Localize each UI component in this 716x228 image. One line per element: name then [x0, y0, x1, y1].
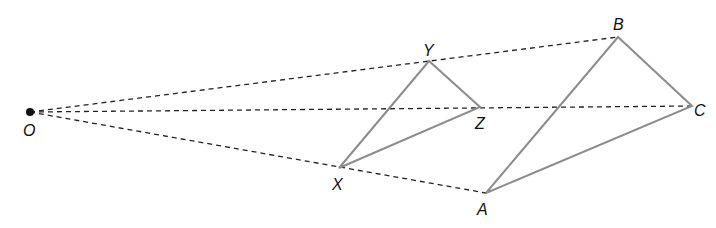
label-x: X [331, 176, 344, 193]
triangle-xyz [339, 61, 480, 168]
label-c: C [694, 102, 706, 119]
dilation-diagram: O Y Z X B C A [0, 0, 716, 228]
ray-o-a [30, 112, 486, 193]
ray-o-c [30, 106, 692, 112]
label-z: Z [474, 115, 486, 132]
ray-o-b [30, 37, 618, 112]
label-b: B [613, 16, 624, 33]
label-y: Y [423, 42, 435, 59]
center-point-o [26, 108, 34, 116]
triangle-abc [486, 37, 692, 193]
label-a: A [476, 201, 488, 218]
label-o: O [23, 122, 35, 139]
